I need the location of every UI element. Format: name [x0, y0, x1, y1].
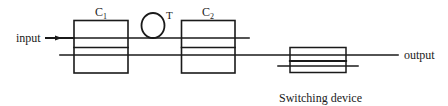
fiber-loop-t: [142, 13, 165, 38]
loop-t-label: T: [166, 9, 173, 21]
output-label: output: [404, 48, 435, 62]
coupler-c2-label: C2: [202, 5, 214, 21]
optical-switching-diagram: input C1 T C2 output Switching device: [0, 0, 448, 106]
input-label: input: [16, 31, 41, 45]
coupler-c2: [182, 21, 236, 74]
input-arrow: [46, 36, 74, 41]
coupler-c1-label: C1: [95, 5, 107, 21]
switching-device-caption: Switching device: [279, 91, 362, 105]
coupler-c1: [74, 21, 128, 74]
switching-device: [278, 48, 358, 73]
